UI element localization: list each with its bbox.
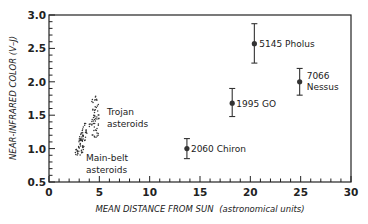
asteroid-dot xyxy=(83,146,85,148)
label-7066-nessus-name: Nessus xyxy=(307,82,339,92)
asteroid-dot xyxy=(92,134,94,136)
asteroid-dot xyxy=(96,118,98,120)
y-axis-tick-labels: 0.51.01.52.02.53.0 xyxy=(27,9,46,188)
asteroid-dot xyxy=(97,110,99,112)
asteroid-dot xyxy=(93,123,95,125)
x-tick-label: 25 xyxy=(293,186,308,198)
asteroid-dot xyxy=(78,150,80,152)
y-tick-label: 3.0 xyxy=(27,9,46,21)
x-tick-label: 30 xyxy=(344,186,359,198)
asteroid-dot xyxy=(79,154,81,156)
asteroid-dot xyxy=(81,136,83,138)
asteroid-dot xyxy=(75,152,77,154)
asteroid-dot xyxy=(98,114,100,116)
asteroid-dot xyxy=(84,125,86,127)
asteroid-dot xyxy=(95,118,97,120)
asteroid-dot xyxy=(82,152,84,154)
centaur-point xyxy=(297,68,303,95)
x-tick-label: 20 xyxy=(243,186,258,198)
asteroid-dot xyxy=(94,106,96,108)
x-axis-ticks xyxy=(49,176,351,182)
asteroid-dot xyxy=(86,132,88,134)
asteroid-dot xyxy=(85,123,87,125)
asteroid-dot xyxy=(77,152,79,154)
centaur-points: 2060 Chiron1995 GO5145 Pholus7066Nessus xyxy=(184,24,339,159)
asteroid-dot xyxy=(89,126,91,128)
y-tick-label: 0.5 xyxy=(27,176,46,188)
asteroid-dot xyxy=(75,154,77,156)
asteroid-dot xyxy=(92,108,94,110)
asteroid-dot xyxy=(96,130,98,132)
y-axis-title: NEAR-INFRARED COLOR (V–J) xyxy=(8,36,18,160)
asteroid-dot xyxy=(93,117,95,119)
asteroid-dot xyxy=(76,154,78,156)
asteroid-dot xyxy=(77,150,79,152)
asteroid-dot xyxy=(96,135,98,137)
y-tick-label: 1.0 xyxy=(27,143,46,155)
asteroid-dot xyxy=(82,146,84,148)
data-point xyxy=(230,101,235,106)
asteroid-dot xyxy=(94,110,96,112)
asteroid-dot xyxy=(96,128,98,130)
asteroid-dot xyxy=(81,139,83,141)
x-tick-label: 15 xyxy=(193,186,208,198)
asteroid-dot xyxy=(84,139,86,141)
centaur-point xyxy=(184,139,190,159)
asteroid-dot xyxy=(96,116,98,118)
trojan-label-line1: Trojan xyxy=(106,107,134,117)
asteroid-dot xyxy=(97,105,99,107)
trojan-asteroid-cluster xyxy=(91,96,100,139)
asteroid-dot xyxy=(98,123,100,125)
centaur-point xyxy=(251,24,257,63)
asteroid-dot xyxy=(91,123,93,125)
asteroid-dot xyxy=(83,135,85,137)
label-5145-pholus: 5145 Pholus xyxy=(259,39,315,49)
asteroid-dot xyxy=(82,130,84,132)
mainbelt-label-line2: asteroids xyxy=(86,165,127,175)
x-axis-title-units: (astronomical units) xyxy=(219,204,304,214)
label-2060-chiron: 2060 Chiron xyxy=(191,144,246,154)
asteroid-dot xyxy=(78,147,80,149)
asteroid-dot xyxy=(78,141,80,143)
data-point xyxy=(184,146,189,151)
y-axis-ticks xyxy=(49,15,55,182)
asteroid-dot xyxy=(94,136,96,138)
chart: 051015202530 0.51.01.52.02.53.0 2060 Chi… xyxy=(0,0,368,224)
asteroid-dot xyxy=(80,145,82,147)
asteroid-dot xyxy=(82,128,84,130)
x-tick-label: 5 xyxy=(96,186,103,198)
x-axis-title-main: MEAN DISTANCE FROM SUN xyxy=(95,204,214,214)
asteroid-dot xyxy=(89,124,91,126)
x-axis-title: MEAN DISTANCE FROM SUN (astronomical uni… xyxy=(95,204,304,214)
label-7066-nessus-number: 7066 xyxy=(307,71,330,81)
asteroid-dot xyxy=(79,138,81,140)
centaur-point xyxy=(229,88,235,116)
data-point xyxy=(297,79,302,84)
x-tick-label: 10 xyxy=(142,186,157,198)
mainbelt-label-line1: Main-belt xyxy=(86,153,128,163)
asteroid-dot xyxy=(95,99,97,101)
asteroid-dot xyxy=(98,118,100,120)
asteroid-dot xyxy=(94,123,96,125)
asteroid-dot xyxy=(94,112,96,114)
asteroid-dot xyxy=(83,126,85,128)
main-belt-asteroid-cluster xyxy=(75,123,91,156)
asteroid-dot xyxy=(80,134,82,136)
asteroid-dot xyxy=(83,149,85,151)
x-tick-label: 0 xyxy=(45,186,52,198)
asteroid-dot xyxy=(79,139,81,141)
asteroid-dot xyxy=(79,136,81,138)
x-axis-tick-labels: 051015202530 xyxy=(45,186,358,198)
asteroid-dot xyxy=(91,101,93,103)
asteroid-dot xyxy=(79,144,81,146)
asteroid-dot xyxy=(98,104,100,106)
asteroid-dot xyxy=(95,96,97,98)
asteroid-dot xyxy=(85,137,87,139)
asteroid-dot xyxy=(96,132,98,134)
asteroid-dot xyxy=(93,130,95,132)
y-tick-label: 2.5 xyxy=(27,42,46,54)
trojan-label-line2: asteroids xyxy=(107,119,148,129)
asteroid-dot xyxy=(94,119,96,121)
asteroid-dot xyxy=(85,130,87,132)
asteroid-dot xyxy=(82,132,84,134)
